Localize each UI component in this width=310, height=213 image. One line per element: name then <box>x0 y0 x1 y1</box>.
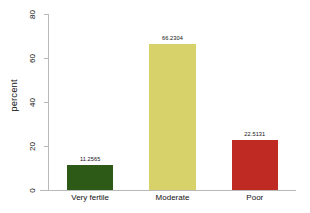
bar-value-label: 22.5131 <box>244 131 265 137</box>
y-axis-tick-label: 20 <box>22 140 42 152</box>
y-axis-title: percent <box>5 0 21 190</box>
bar[interactable] <box>149 44 195 190</box>
bar-value-label: 66.2304 <box>162 35 183 41</box>
y-axis-tick-label: 0 <box>22 184 42 196</box>
bar-group: 11.2565 <box>49 14 131 190</box>
y-axis-tick-label-text: 0 <box>27 188 36 192</box>
x-axis-labels: Very fertileModeratePoor <box>49 193 296 209</box>
y-axis-title-text: percent <box>8 79 19 111</box>
x-axis-category-label: Poor <box>214 193 296 202</box>
y-axis-tick-label: 40 <box>22 96 42 108</box>
bar[interactable] <box>232 140 278 190</box>
x-axis-line <box>40 190 296 191</box>
bar-chart: percent 020406080 11.256566.230422.5131 … <box>0 0 310 213</box>
bar[interactable] <box>67 165 113 190</box>
bar-group: 66.2304 <box>131 14 213 190</box>
y-axis-tick-label-text: 40 <box>28 98 37 107</box>
y-axis-tick-label: 80 <box>22 8 42 20</box>
plot-area: 11.256566.230422.5131 <box>49 14 296 190</box>
y-axis-tick-label: 60 <box>22 52 42 64</box>
y-axis-tick-label-text: 20 <box>28 142 37 151</box>
bar-value-label: 11.2565 <box>80 156 101 162</box>
y-axis-tick <box>44 190 49 191</box>
x-axis-category-label: Moderate <box>131 193 213 202</box>
y-axis-tick-label-text: 80 <box>28 10 37 19</box>
y-axis-tick-label-text: 60 <box>28 54 37 63</box>
bar-group: 22.5131 <box>214 14 296 190</box>
x-axis-category-label: Very fertile <box>49 193 131 202</box>
